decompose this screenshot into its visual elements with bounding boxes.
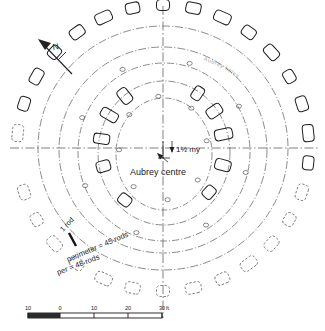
scale-bar-tick-label: 20: [125, 305, 131, 311]
scale-bar-tick-label: 10: [25, 305, 31, 311]
stonehenge-plan-svg: Aubrey holes N 1½ my Aubrey centre 1 rod…: [0, 0, 325, 331]
scale-bar-tick-label: 30: [159, 305, 165, 311]
scale-bar-hatched-segment: [28, 313, 60, 318]
scale-bar-tick-label: 10: [91, 305, 97, 311]
aubrey-centre-label: Aubrey centre: [130, 167, 186, 177]
scale-bar-tick-label: 0: [58, 305, 61, 311]
scale-bar-unit-label: ft: [166, 305, 170, 311]
centre-offset-label: 1½ my: [176, 145, 200, 154]
